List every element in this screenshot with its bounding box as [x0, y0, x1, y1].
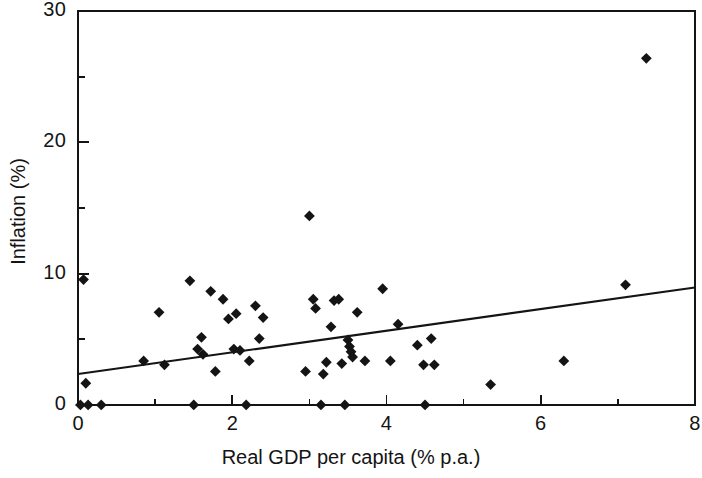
data-point: [231, 308, 242, 319]
y-tick-label: 0: [18, 392, 66, 415]
data-point: [347, 352, 358, 363]
y-tick-major: [79, 273, 89, 275]
data-point: [218, 294, 229, 305]
data-point: [485, 379, 496, 390]
x-tick-major: [231, 395, 233, 404]
data-point: [385, 356, 396, 367]
data-point: [223, 314, 234, 325]
x-tick-label: 0: [53, 412, 103, 435]
data-point-layer: [77, 10, 696, 406]
x-tick-minor: [154, 399, 156, 404]
top-axis-line: [77, 10, 696, 12]
data-point: [198, 349, 209, 360]
data-point: [254, 333, 265, 344]
data-point: [244, 356, 255, 367]
data-point: [258, 312, 269, 323]
data-point: [326, 321, 337, 332]
x-tick-major: [386, 395, 388, 404]
x-tick-minor: [463, 399, 465, 404]
y-tick-label: 30: [18, 0, 66, 21]
y-tick-major: [79, 141, 89, 143]
data-point: [235, 345, 246, 356]
data-point: [412, 340, 423, 351]
data-point: [558, 356, 569, 367]
x-tick-label: 2: [207, 412, 257, 435]
y-tick-minor: [79, 76, 85, 78]
x-axis-title: Real GDP per capita (% p.a.): [0, 446, 702, 469]
data-point: [620, 279, 631, 290]
y-tick-minor: [79, 207, 85, 209]
x-tick-major: [694, 395, 696, 404]
right-axis-line: [694, 10, 696, 406]
data-point: [318, 369, 329, 380]
data-point: [393, 319, 404, 330]
data-point: [250, 300, 261, 311]
data-point: [333, 294, 344, 305]
y-tick-major: [79, 10, 89, 12]
data-point: [377, 283, 388, 294]
x-tick-label: 4: [362, 412, 412, 435]
data-point: [418, 359, 429, 370]
data-point: [196, 332, 207, 343]
regression-line-layer: [77, 10, 696, 406]
scatter-plot-figure: 02468 0102030 Real GDP per capita (% p.a…: [0, 0, 702, 478]
data-point: [80, 378, 91, 389]
data-point: [329, 295, 340, 306]
y-tick-minor: [79, 338, 85, 340]
data-point: [308, 294, 319, 305]
y-tick-major: [79, 404, 89, 406]
x-tick-label: 8: [670, 412, 702, 435]
x-tick-major: [540, 395, 542, 404]
data-point: [192, 344, 203, 355]
x-tick-label: 6: [516, 412, 566, 435]
data-point: [346, 346, 357, 357]
data-point: [344, 341, 355, 352]
regression-line: [78, 287, 695, 374]
x-tick-minor: [617, 399, 619, 404]
data-point: [360, 356, 371, 367]
data-point: [138, 356, 149, 367]
data-point: [300, 366, 311, 377]
plot-area: [77, 10, 696, 406]
data-point: [78, 274, 89, 285]
x-tick-major: [77, 395, 79, 404]
data-point: [426, 333, 437, 344]
data-point: [205, 286, 216, 297]
data-point: [184, 275, 195, 286]
x-tick-minor: [309, 399, 311, 404]
data-point: [352, 307, 363, 318]
y-axis-title: Inflation (%): [7, 102, 30, 322]
data-point: [159, 359, 170, 370]
data-point: [336, 358, 347, 369]
data-point: [343, 335, 354, 346]
data-point: [210, 366, 221, 377]
data-point: [641, 53, 652, 64]
data-point: [321, 357, 332, 368]
x-axis-line: [77, 404, 696, 406]
data-point: [154, 307, 165, 318]
data-point: [228, 344, 239, 355]
data-point: [310, 303, 321, 314]
data-point: [304, 210, 315, 221]
data-point: [429, 359, 440, 370]
